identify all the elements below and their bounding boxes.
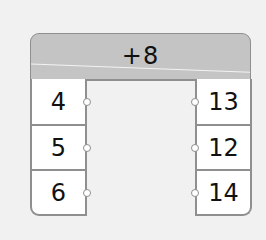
connector-knob-icon <box>83 98 91 106</box>
output-value: 12 <box>208 134 239 162</box>
connector-knob-icon <box>83 189 91 197</box>
output-cell: 12 <box>197 124 250 169</box>
connector-knob-icon <box>191 189 199 197</box>
input-value: 6 <box>51 179 66 207</box>
input-cell: 5 <box>32 124 85 169</box>
connector-knob-icon <box>191 144 199 152</box>
input-value: 5 <box>51 134 66 162</box>
input-cell: 4 <box>32 79 85 124</box>
connector-knob-icon <box>191 98 199 106</box>
input-cell: 6 <box>32 169 85 214</box>
connector-knob-icon <box>83 144 91 152</box>
operation-header: +8 <box>30 33 251 81</box>
output-cell: 13 <box>197 79 250 124</box>
output-value: 14 <box>208 179 239 207</box>
output-cell: 14 <box>197 169 250 214</box>
output-value: 13 <box>208 88 239 116</box>
output-column: 13 12 14 <box>195 79 252 216</box>
operation-label: +8 <box>31 42 250 70</box>
input-value: 4 <box>51 88 66 116</box>
function-machine: +8 4 5 6 13 12 14 <box>30 33 251 214</box>
input-column: 4 5 6 <box>30 79 87 216</box>
